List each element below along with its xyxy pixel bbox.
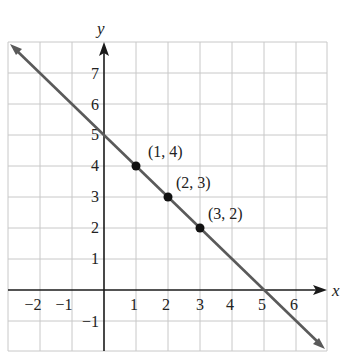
- point-1-4: [132, 162, 141, 171]
- point-2-3: [164, 193, 173, 202]
- x-axis-label: x: [331, 281, 340, 300]
- x-tick: 6: [290, 296, 298, 313]
- point-label: (3, 2): [208, 205, 243, 223]
- y-tick: 3: [91, 188, 99, 205]
- x-tick: 2: [162, 296, 170, 313]
- x-tick-labels: −2 −1 1 2 3 4 5 6: [24, 296, 298, 313]
- y-axis-label: y: [95, 19, 105, 38]
- x-tick: −2: [24, 296, 41, 313]
- y-tick: −1: [82, 313, 99, 330]
- point-labels: (1, 4) (2, 3) (3, 2): [148, 143, 243, 223]
- point-3-2: [196, 224, 205, 233]
- y-tick: 6: [91, 96, 99, 113]
- x-tick: 4: [226, 296, 234, 313]
- point-label: (2, 3): [176, 174, 211, 192]
- y-tick: 2: [91, 219, 99, 236]
- point-label: (1, 4): [148, 143, 183, 161]
- x-tick: 5: [258, 296, 266, 313]
- y-tick: 4: [91, 157, 99, 174]
- x-tick: −1: [55, 296, 72, 313]
- y-tick: 7: [91, 65, 99, 82]
- y-tick: 1: [91, 250, 99, 267]
- x-tick: 3: [196, 296, 204, 313]
- x-tick: 1: [130, 296, 138, 313]
- coordinate-plane: x y −2 −1 1 2 3 4 5 6 7 6 5 4 3 2 1 −1 (…: [0, 0, 345, 358]
